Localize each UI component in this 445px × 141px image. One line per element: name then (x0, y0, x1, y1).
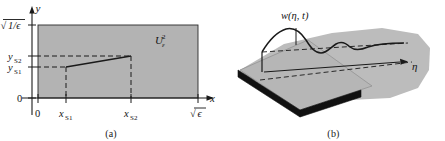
x-tick-text-xS2-main: x (123, 108, 129, 119)
x-tick-label-sqrt-eps: √ ϵ (190, 108, 206, 119)
y-tick-text-yS2-sub: S2 (14, 57, 22, 65)
panel-a: y x √ 1/ϵ y S2 y S1 0 0 x S1 (0, 0, 222, 141)
eta-axis-label: η (412, 60, 417, 72)
y-tick-text-yS2-main: y (7, 51, 13, 62)
y-axis-label: y (35, 2, 41, 14)
figure-root: y x √ 1/ϵ y S2 y S1 0 0 x S1 (0, 0, 445, 141)
x-tick-text-xS1-main: x (58, 108, 64, 119)
region-label-superscript: 2 (162, 33, 166, 41)
x-tick-text-xS1-sub: S1 (65, 114, 73, 122)
panel-a-caption: (a) (0, 128, 222, 139)
x-tick-text-sqrt-eps: ϵ (198, 108, 203, 119)
y-axis-arrowhead (29, 6, 34, 14)
x-tick-text-xS2-sub: S2 (130, 114, 138, 122)
domain-rectangle (38, 25, 198, 98)
panel-b-plot: w(η, t) η (222, 0, 445, 141)
y-tick-text-yS1-main: y (7, 62, 13, 73)
radical-sign-inv-eps: √ (1, 20, 7, 31)
x-tick-label-xS2: x S2 (123, 108, 138, 122)
x-axis-label: x (209, 92, 215, 104)
y-tick-text-inv-eps: 1/ϵ (8, 20, 21, 31)
y-tick-label-sqrt-inv-eps: √ 1/ϵ (1, 20, 26, 31)
panel-b-caption: (b) (222, 128, 445, 139)
panel-b: w(η, t) η (b) (222, 0, 445, 141)
y-tick-label-zero: 0 (17, 93, 22, 104)
wave-label: w(η, t) (281, 10, 309, 22)
x-tick-label-xS1: x S1 (58, 108, 73, 122)
radical-sign-eps: √ (190, 108, 196, 119)
y-tick-text-yS1-sub: S1 (14, 68, 22, 76)
panel-a-plot: y x √ 1/ϵ y S2 y S1 0 0 x S1 (0, 0, 222, 141)
region-label-subscript: ε (162, 41, 165, 49)
x-tick-label-zero: 0 (35, 108, 40, 119)
